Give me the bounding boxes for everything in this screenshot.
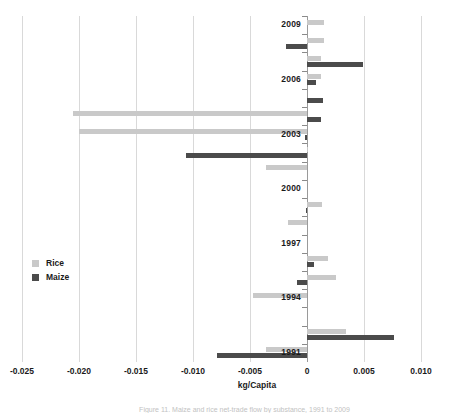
x-axis-tick-label: 0 bbox=[305, 366, 310, 376]
y-axis-tick bbox=[302, 271, 307, 272]
x-axis-tick-label: 0.005 bbox=[353, 366, 374, 376]
y-axis-year-label: 2009 bbox=[261, 19, 301, 29]
bar-rice-1998 bbox=[288, 220, 307, 225]
rice-swatch-icon bbox=[32, 260, 39, 267]
y-axis-tick bbox=[302, 180, 307, 181]
y-axis-year-label: 2006 bbox=[261, 74, 301, 84]
y-axis-tick bbox=[302, 89, 307, 90]
legend-label-maize: Maize bbox=[46, 272, 69, 282]
legend-item-maize: Maize bbox=[32, 270, 69, 284]
y-axis-tick bbox=[302, 235, 307, 236]
y-axis-tick bbox=[302, 216, 307, 217]
y-axis-tick bbox=[302, 16, 307, 17]
bar-maize-2003 bbox=[305, 135, 307, 140]
x-axis-tick-label: -0.015 bbox=[124, 366, 148, 376]
bar-maize-2006 bbox=[307, 80, 316, 85]
plot-area: 2009200620032000199719941991 bbox=[0, 16, 459, 362]
bar-maize-2002 bbox=[186, 153, 307, 158]
gridline bbox=[364, 16, 365, 362]
figure-caption-text: Figure 11. Maize and rice net-trade flow… bbox=[139, 406, 350, 413]
gridline bbox=[79, 16, 80, 362]
y-axis-tick bbox=[302, 125, 307, 126]
x-axis-tick-label: -0.025 bbox=[10, 366, 34, 376]
x-axis-tick-label: -0.010 bbox=[181, 366, 205, 376]
gridline bbox=[22, 16, 23, 362]
y-axis-tick bbox=[302, 253, 307, 254]
bar-maize-1996 bbox=[307, 262, 314, 267]
y-axis-tick bbox=[302, 344, 307, 345]
y-axis-year-label: 1997 bbox=[261, 238, 301, 248]
y-axis-tick bbox=[302, 107, 307, 108]
bar-rice-2002 bbox=[307, 147, 308, 152]
gridline bbox=[250, 16, 251, 362]
y-axis-year-label: 1991 bbox=[261, 347, 301, 357]
bar-rice-2006 bbox=[307, 74, 321, 79]
maize-swatch-icon bbox=[32, 274, 39, 281]
y-axis-tick bbox=[302, 198, 307, 199]
x-axis-title: kg/Capita bbox=[0, 380, 459, 390]
bar-rice-1999 bbox=[307, 202, 322, 207]
chart-legend: Rice Maize bbox=[32, 256, 69, 284]
bar-maize-2008 bbox=[286, 44, 307, 49]
zero-axis-line bbox=[307, 16, 308, 362]
y-axis-tick bbox=[302, 71, 307, 72]
y-axis-year-label: 2000 bbox=[261, 183, 301, 193]
y-axis-tick bbox=[302, 289, 307, 290]
bar-maize-2004 bbox=[307, 117, 321, 122]
x-axis-tick-label: -0.020 bbox=[67, 366, 91, 376]
y-axis-tick bbox=[302, 34, 307, 35]
legend-item-rice: Rice bbox=[32, 256, 69, 270]
figure-caption: Figure 11. Maize and rice net-trade flow… bbox=[0, 406, 459, 413]
bar-maize-2007 bbox=[307, 62, 363, 67]
bar-maize-1995 bbox=[297, 280, 307, 285]
bar-rice-2008 bbox=[307, 38, 324, 43]
y-axis-tick bbox=[302, 162, 307, 163]
bar-maize-2005 bbox=[307, 98, 323, 103]
gridline bbox=[193, 16, 194, 362]
bar-maize-1992 bbox=[307, 335, 394, 340]
x-axis-title-label: kg/Capita bbox=[238, 380, 276, 390]
y-axis-tick bbox=[302, 143, 307, 144]
bar-rice-2004 bbox=[73, 111, 307, 116]
y-axis-tick bbox=[302, 52, 307, 53]
bar-rice-2001 bbox=[266, 165, 307, 170]
y-axis-year-label: 1994 bbox=[261, 292, 301, 302]
x-axis-tick-label: -0.005 bbox=[238, 366, 262, 376]
x-axis-tick-label: 0.010 bbox=[410, 366, 431, 376]
bar-maize-1999 bbox=[306, 208, 307, 213]
gridline bbox=[136, 16, 137, 362]
bar-rice-1992 bbox=[307, 329, 346, 334]
bar-rice-2007 bbox=[307, 56, 321, 61]
bar-rice-1995 bbox=[307, 275, 336, 280]
y-axis-year-label: 2003 bbox=[261, 129, 301, 139]
legend-label-rice: Rice bbox=[46, 258, 64, 268]
y-axis-tick bbox=[302, 326, 307, 327]
gridline bbox=[421, 16, 422, 362]
bar-chart: 2009200620032000199719941991 -0.025-0.02… bbox=[0, 0, 459, 420]
bar-rice-2009 bbox=[307, 20, 324, 25]
bar-rice-1996 bbox=[307, 256, 328, 261]
y-axis-tick bbox=[302, 307, 307, 308]
